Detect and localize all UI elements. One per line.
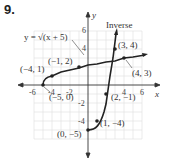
y-tick: 4: [82, 44, 86, 53]
function-arrow: [142, 53, 148, 57]
point-label: (3, 4): [118, 40, 138, 50]
point-label: (0, −5): [57, 129, 82, 139]
y-tick: 6: [82, 26, 86, 35]
graph: y x -6 -4 -2 4 6 6 4 -2 -4 y = √(x + 5) …: [0, 0, 171, 164]
x-tick: 6: [140, 88, 144, 97]
point-label: (1, −4): [100, 118, 125, 128]
y-axis-label: y: [91, 10, 96, 20]
point-label: (4, 3): [132, 68, 152, 78]
y-tick: -4: [78, 117, 85, 126]
point-label: (−1, 2): [48, 56, 73, 66]
point-label: (2, −1): [111, 92, 136, 102]
function-label: y = √(x + 5): [24, 32, 68, 42]
x-tick: -6: [29, 88, 36, 97]
x-axis-label: x: [154, 89, 159, 99]
inverse-curve: [88, 34, 116, 130]
inverse-label: Inverse: [106, 20, 133, 30]
point-label: (−4, 1): [20, 64, 45, 74]
y-tick: -2: [78, 99, 85, 108]
point-label: (−5, 0): [49, 92, 74, 102]
